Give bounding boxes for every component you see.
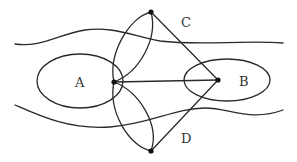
label-c: C — [181, 15, 191, 30]
diagram-svg: A B C D — [0, 0, 297, 162]
label-a: A — [74, 75, 85, 90]
diagram-canvas: A B C D — [0, 0, 297, 162]
edge-a-b — [114, 80, 218, 82]
point-d — [148, 148, 153, 153]
lens-ca-left-curve — [113, 12, 151, 82]
point-a — [111, 79, 116, 84]
point-b — [215, 77, 220, 82]
point-c — [148, 9, 153, 14]
label-d: D — [181, 131, 191, 146]
label-b: B — [239, 74, 249, 89]
